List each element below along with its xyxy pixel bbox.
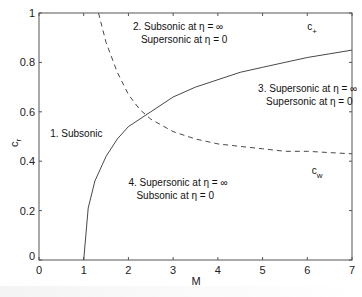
region-annotation-2: 2. Subsonic at η = ∞ bbox=[133, 21, 223, 32]
x-tick-label: 0 bbox=[36, 264, 42, 276]
region-annotation-1: 1. Subsonic bbox=[50, 128, 102, 139]
svg-text:cr: cr bbox=[8, 139, 23, 148]
y-tick-label: 0.6 bbox=[20, 106, 35, 118]
caption-strip bbox=[0, 286, 362, 297]
region-annotation-4: Subsonic at η = 0 bbox=[136, 190, 214, 201]
curve-c+ bbox=[84, 50, 352, 260]
y-axis-label: cr bbox=[8, 139, 23, 148]
chart: 0123456700.20.40.60.81 1. Subsonic2. Sub… bbox=[0, 0, 362, 297]
region-annotation-4: 4. Supersonic at η = ∞ bbox=[128, 177, 227, 188]
x-tick-label: 1 bbox=[81, 264, 87, 276]
region-annotation-2: Supersonic at η = 0 bbox=[141, 34, 228, 45]
y-tick-label: 0 bbox=[29, 250, 35, 262]
region-annotation-3: 3. Supersonic at η = ∞ bbox=[258, 83, 357, 94]
x-tick-label: 2 bbox=[125, 264, 131, 276]
series-label-c+: c+ bbox=[307, 21, 317, 36]
plot-curves bbox=[84, 13, 352, 260]
y-tick-label: 0.2 bbox=[20, 205, 35, 217]
y-tick-label: 0.4 bbox=[20, 155, 35, 167]
series-label-cw: cw bbox=[312, 165, 323, 180]
y-tick-label: 1 bbox=[29, 7, 35, 19]
axis-ticks: 0123456700.20.40.60.81 bbox=[20, 7, 355, 276]
x-tick-label: 3 bbox=[170, 264, 176, 276]
x-tick-label: 4 bbox=[215, 264, 221, 276]
region-annotation-3: Supersonic at η = 0 bbox=[266, 96, 353, 107]
x-tick-label: 7 bbox=[349, 264, 355, 276]
x-tick-label: 6 bbox=[304, 264, 310, 276]
x-tick-label: 5 bbox=[260, 264, 266, 276]
y-tick-label: 0.8 bbox=[20, 56, 35, 68]
